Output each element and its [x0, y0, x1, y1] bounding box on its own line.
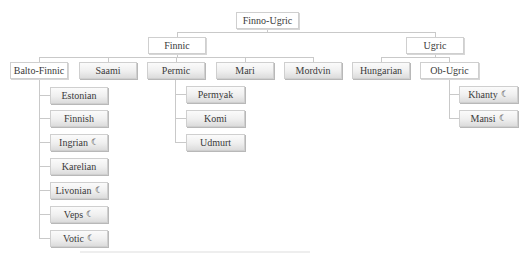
- node-mansi[interactable]: Mansi ☾: [459, 110, 518, 127]
- connector: [449, 94, 459, 95]
- connector: [39, 166, 50, 167]
- connector: [175, 94, 186, 95]
- node-label: Komi: [204, 113, 227, 124]
- connector: [39, 238, 50, 239]
- connector: [381, 57, 450, 58]
- node-permyak[interactable]: Permyak: [186, 86, 245, 103]
- figure-caption-faded: [80, 251, 310, 253]
- node-label: Ob-Ugric: [430, 65, 468, 76]
- node-label: Finno-Ugric: [243, 15, 292, 26]
- node-livonian[interactable]: Livonian ☾: [50, 182, 108, 199]
- node-finno-ugric[interactable]: Finno-Ugric: [236, 12, 299, 29]
- node-label: Udmurt: [200, 137, 231, 148]
- connector: [39, 79, 40, 239]
- connector: [175, 142, 186, 143]
- node-finnic[interactable]: Finnic: [148, 37, 206, 54]
- node-karelian[interactable]: Karelian: [50, 158, 108, 175]
- node-ugric[interactable]: Ugric: [406, 37, 464, 54]
- connector: [39, 142, 50, 143]
- connector: [39, 214, 50, 215]
- node-khanty[interactable]: Khanty ☾: [459, 86, 518, 103]
- crescent-moon-icon: ☾: [95, 186, 103, 195]
- connector: [449, 79, 450, 119]
- node-label: Khanty: [468, 89, 497, 100]
- crescent-moon-icon: ☾: [499, 114, 507, 123]
- crescent-moon-icon: ☾: [86, 210, 94, 219]
- node-hungarian[interactable]: Hungarian: [352, 62, 410, 79]
- crescent-moon-icon: ☾: [501, 90, 509, 99]
- node-permic[interactable]: Permic: [147, 62, 205, 79]
- node-veps[interactable]: Veps ☾: [50, 206, 108, 223]
- crescent-moon-icon: ☾: [91, 138, 99, 147]
- node-label: Mansi: [471, 113, 496, 124]
- connector: [39, 95, 50, 96]
- node-label: Livonian: [55, 185, 91, 196]
- node-udmurt[interactable]: Udmurt: [186, 134, 245, 151]
- node-label: Hungarian: [360, 65, 402, 76]
- node-label: Karelian: [62, 161, 96, 172]
- node-label: Ugric: [424, 40, 447, 51]
- node-saami[interactable]: Saami: [79, 62, 137, 79]
- node-label: Balto-Finnic: [14, 65, 65, 76]
- node-label: Permic: [162, 65, 190, 76]
- connector: [175, 79, 176, 143]
- connector: [177, 32, 436, 33]
- node-estonian[interactable]: Estonian: [50, 87, 108, 104]
- connector: [39, 190, 50, 191]
- node-label: Finnic: [164, 40, 190, 51]
- node-komi[interactable]: Komi: [186, 110, 245, 127]
- language-family-tree: Finno-Ugric Finnic Ugric Balto-Finnic Sa…: [0, 0, 529, 258]
- node-label: Votic: [63, 233, 84, 244]
- connector: [449, 118, 459, 119]
- node-balto-finnic[interactable]: Balto-Finnic: [10, 62, 68, 79]
- node-finnish[interactable]: Finnish: [50, 110, 108, 127]
- node-label: Mordvin: [296, 65, 331, 76]
- node-label: Permyak: [198, 89, 234, 100]
- node-label: Ingrian: [59, 137, 88, 148]
- node-label: Saami: [96, 65, 121, 76]
- connector: [39, 118, 50, 119]
- node-label: Finnish: [64, 113, 94, 124]
- connector: [175, 118, 186, 119]
- node-ob-ugric[interactable]: Ob-Ugric: [420, 62, 479, 79]
- node-mari[interactable]: Mari: [216, 62, 274, 79]
- node-label: Veps: [64, 209, 83, 220]
- node-ingrian[interactable]: Ingrian ☾: [50, 134, 108, 151]
- node-votic[interactable]: Votic ☾: [50, 230, 108, 247]
- node-mordvin[interactable]: Mordvin: [284, 62, 342, 79]
- crescent-moon-icon: ☾: [87, 234, 95, 243]
- node-label: Estonian: [62, 90, 97, 101]
- node-label: Mari: [235, 65, 254, 76]
